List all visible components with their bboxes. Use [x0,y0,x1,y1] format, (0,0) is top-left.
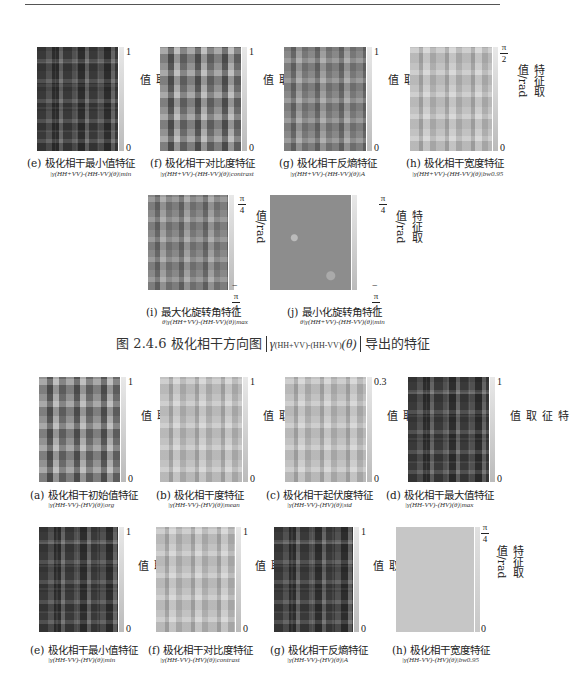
panel-caption: (j) 最小化旋转角特征 [287,304,382,319]
colorbar [367,377,372,482]
colorbar [229,195,234,290]
panel-caption: (i) 最大化旋转角特征 [146,304,241,319]
panel-caption: (f) 极化相干对比度特征 [148,642,253,657]
colorbar [493,47,498,151]
colorbar-min-tick: 0 [481,624,486,634]
colorbar-min-tick: 0 [126,624,131,634]
colorbar-max-tick: π4 [379,193,387,215]
panel-formula: θ|γ(HH+VV)-(HH-VV)(θ)|max [162,318,248,326]
colorbar-max-tick: 1 [128,377,133,387]
panel-formula: |γ(HH+VV)-(HH-VV)(θ)|A [290,170,365,178]
panel-caption: (e) 极化相干最小值特征 [30,642,138,657]
colorbar-max-tick: 1 [249,47,254,57]
colorbar [236,527,241,632]
sar-image [160,47,241,151]
panel-formula: |γ(HH+VV)-(HH-VV)(θ)|min [50,170,131,178]
panel-caption: (d) 极化相干最大值特征 [386,487,494,502]
axis-label: 特征取值/rad [493,545,525,579]
colorbar [475,527,480,632]
panel-caption: (g) 极化相干反熵特征 [270,642,368,657]
colorbar-min-tick: 0 [128,474,133,484]
colorbar-max-tick: 0.3 [374,377,387,387]
header-rule [25,4,500,5]
colorbar-min-tick: 0 [126,143,131,153]
panel-caption: (h) 极化相干宽度特征 [392,642,490,657]
sar-image [148,195,228,290]
colorbar [119,527,124,632]
sar-image [39,527,118,632]
panel-formula: θ|γ(HH+VV)-(HH-VV)(θ)|min [300,318,385,326]
panel-formula: |γ(HH-VV)-(HV)(θ)|bw0.95 [402,656,479,664]
colorbar-max-tick: 1 [250,377,255,387]
panel-caption: (g) 极化相干反熵特征 [279,155,377,170]
colorbar-max-tick: 1 [126,47,131,57]
colorbar-min-tick: 0 [249,143,254,153]
colorbar [121,377,126,482]
sar-image [270,195,351,290]
sar-image [396,527,474,632]
panel-caption: (h) 极化相干宽度特征 [406,155,504,170]
colorbar [242,47,247,151]
panel-caption: (f) 极化相干对比度特征 [150,155,255,170]
colorbar-max-tick: 1 [497,377,502,387]
sar-image [285,377,366,482]
colorbar-min-tick: 0 [500,143,505,153]
figure-1-title: 图 2.4.6 极化相干方向图 γ(HH+VV)-(HH-VV)(θ) 导出的特… [0,333,546,352]
colorbar [354,527,359,632]
panel-caption: (a) 极化相干初始值特征 [30,487,138,502]
sar-image [284,47,366,151]
axis-label: 特征取值/rad [514,64,546,98]
colorbar-max-tick: π4 [238,193,246,215]
colorbar-min-tick: 0 [374,474,379,484]
panel-formula: |γ(HH-VV)-(HV)(θ)|min [48,656,115,664]
panel-formula: |γ(HH+VV)-(HH-VV)(θ)|bw0.95 [412,170,503,178]
colorbar [352,195,357,290]
sar-image [39,377,120,482]
axis-label: 特征取值/rad [392,210,424,244]
colorbar-max-tick: 1 [361,527,366,537]
colorbar-max-tick: 1 [243,527,248,537]
colorbar [243,377,248,482]
sar-image [274,527,353,632]
panel-caption: (c) 极化相干起伏度特征 [266,487,373,502]
sar-image [408,377,489,482]
colorbar [490,377,495,482]
colorbar [119,47,124,151]
coherence-symbol: γ(HH+VV)-(HH-VV)(θ) [266,336,361,352]
panel-formula: |γ(HH-VV)-(HV)(θ)|contrast [160,656,240,664]
panel-caption: (b) 极化相干度特征 [156,487,244,502]
panel-formula: |γ(HH-VV)-(HV)(θ)|A [287,656,348,664]
colorbar-max-tick: 1 [126,527,131,537]
axis-label: 特征取值 [506,410,570,421]
colorbar-max-tick: π2 [500,42,508,64]
colorbar-min-tick: 0 [374,143,379,153]
panel-formula: |γ(HH-VV)-(HV)(θ)|std [287,501,352,509]
sar-image [410,47,492,151]
panel-formula: |γ(HH-VV)-(HV)(θ)|max [405,501,473,509]
colorbar-min-tick: 0 [497,474,502,484]
colorbar-min-tick: 0 [250,474,255,484]
panel-formula: |γ(HH+VV)-(HH-VV)(θ)|contrast [160,170,254,178]
sar-image [37,47,118,151]
colorbar-max-tick: 1 [374,47,379,57]
colorbar-min-tick: 0 [361,624,366,634]
sar-image [156,527,235,632]
colorbar-min-tick: 0 [243,624,248,634]
panel-formula: |γ(HH-VV)-(HV)(θ)|mean [168,501,240,509]
colorbar-max-tick: π4 [481,522,489,544]
panel-formula: |γ(HH-VV)-(HV)(θ)|org [48,501,114,509]
panel-caption: (e) 极化相干最小值特征 [27,155,135,170]
sar-image [160,377,242,482]
colorbar [367,47,372,151]
